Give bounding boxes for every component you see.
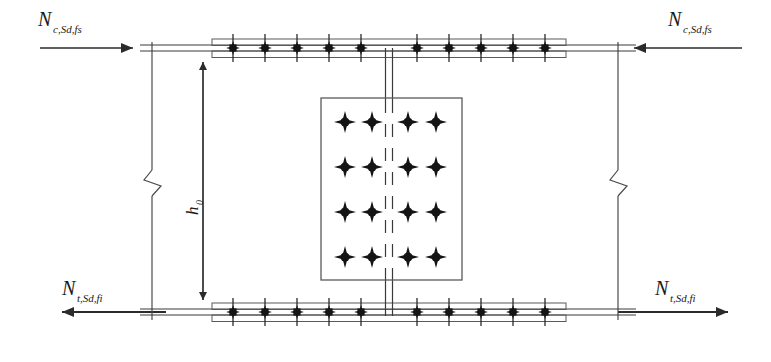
top-right-force-subscript: c,Sd,fs: [683, 23, 712, 35]
web-plate-bolts: [334, 111, 447, 268]
left-break-symbol: [144, 170, 161, 196]
bottom-right-force-symbol: N: [654, 277, 670, 299]
bottom-right-force-label: N t,Sd,fi: [654, 277, 696, 304]
bolt: [334, 156, 356, 178]
right-break-symbol: [610, 170, 627, 196]
top-left-force-symbol: N: [37, 8, 53, 30]
bolt: [361, 156, 383, 178]
bottom-left-force-subscript: t,Sd,fi: [77, 292, 103, 304]
top-right-force-symbol: N: [667, 8, 683, 30]
bolt: [397, 246, 419, 268]
bottom-flange-group: [140, 298, 636, 326]
bolt: [397, 201, 419, 223]
bolt: [425, 156, 447, 178]
bolt: [425, 111, 447, 133]
bolt: [334, 201, 356, 223]
bolt: [397, 111, 419, 133]
splice-connection-diagram: h 0 N c,Sd,fs N c,Sd,fs N t,Sd,fi N t,Sd…: [0, 0, 771, 362]
bolt: [361, 111, 383, 133]
top-right-force-label: N c,Sd,fs: [667, 8, 712, 35]
dimension-label-h0: h 0: [183, 200, 205, 215]
bolt: [334, 246, 356, 268]
top-left-force-subscript: c,Sd,fs: [53, 23, 82, 35]
dimension-subscript: 0: [194, 200, 205, 205]
web-cover-plate-group: [321, 98, 462, 280]
dimension-line-group: h 0: [183, 62, 205, 300]
beam-web-group: [386, 48, 393, 316]
bottom-left-force-label: N t,Sd,fi: [61, 277, 103, 304]
top-left-force-label: N c,Sd,fs: [37, 8, 82, 35]
bolt: [397, 156, 419, 178]
bottom-right-force-subscript: t,Sd,fi: [670, 292, 696, 304]
bolt: [425, 201, 447, 223]
bolt: [361, 246, 383, 268]
bolt: [425, 246, 447, 268]
dimension-symbol: h: [183, 207, 202, 216]
bottom-left-force-symbol: N: [61, 277, 77, 299]
top-flange-group: [140, 34, 636, 62]
bolt: [334, 111, 356, 133]
bolt: [361, 201, 383, 223]
diagram-canvas: h 0 N c,Sd,fs N c,Sd,fs N t,Sd,fi N t,Sd…: [0, 0, 771, 362]
